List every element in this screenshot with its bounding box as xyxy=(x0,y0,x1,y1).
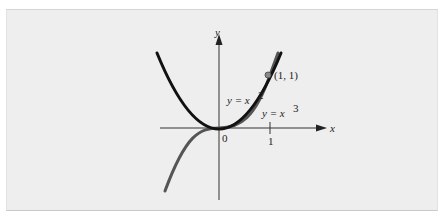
svg-text:y = x: y = x xyxy=(261,107,285,119)
svg-text:3: 3 xyxy=(293,102,299,114)
svg-text:2: 2 xyxy=(258,89,264,101)
y-axis xyxy=(216,34,223,200)
y-axis-label: y xyxy=(214,26,220,38)
cubic-curve xyxy=(165,53,278,191)
graph: y x 0 1 (1, 1) y = x 2 y = x 3 xyxy=(0,0,446,217)
x-axis-arrow-icon xyxy=(316,125,327,132)
origin-label: 0 xyxy=(222,132,228,144)
x-axis xyxy=(160,125,327,132)
svg-text:y = x: y = x xyxy=(226,94,250,106)
x-tick-label: 1 xyxy=(268,135,274,147)
point-label: (1, 1) xyxy=(274,69,298,82)
x-axis-label: x xyxy=(329,122,335,134)
cubic-label: y = x 3 xyxy=(261,102,299,119)
point-1-1-marker xyxy=(265,72,271,78)
